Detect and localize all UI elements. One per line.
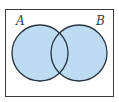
set-a-label: A — [15, 14, 25, 28]
venn-diagram: A B — [0, 0, 119, 102]
set-b-label: B — [95, 14, 105, 28]
